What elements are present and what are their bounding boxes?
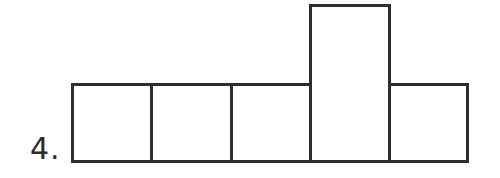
box-3	[230, 83, 312, 163]
box-5	[388, 83, 469, 163]
problem-number-label: 4.	[30, 134, 61, 164]
box-4-tall	[309, 4, 391, 163]
box-2	[150, 83, 233, 163]
box-1	[71, 83, 153, 163]
